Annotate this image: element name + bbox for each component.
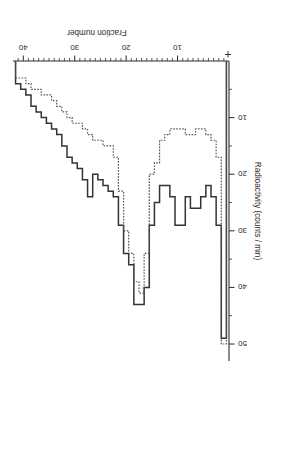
x-axis-title: Fraction number xyxy=(67,28,127,37)
y-axis-title: Radioactivity (counts / min) xyxy=(253,162,262,261)
origin-plus-marker: + xyxy=(224,47,231,61)
labels-group: 102030401020304050Fraction numberRadioac… xyxy=(18,28,262,348)
x-axis-tick-label: 40 xyxy=(18,43,27,52)
elution-profile-chart: 102030401020304050Fraction numberRadioac… xyxy=(0,0,281,453)
series-group xyxy=(16,61,227,344)
rotated-figure-container: 102030401020304050Fraction numberRadioac… xyxy=(0,0,281,453)
y-axis-tick-label: 40 xyxy=(237,282,246,291)
y-axis-tick-label: 50 xyxy=(237,339,246,348)
figure-canvas: 102030401020304050Fraction numberRadioac… xyxy=(0,0,281,453)
x-axis-tick-label: 20 xyxy=(121,43,130,52)
y-axis-tick-label: 30 xyxy=(237,226,246,235)
y-axis-tick-label: 20 xyxy=(237,169,246,178)
y-axis-tick-label: 10 xyxy=(237,113,246,122)
data-series-0 xyxy=(16,61,227,338)
x-axis-tick-label: 30 xyxy=(70,43,79,52)
data-series-1 xyxy=(16,61,227,344)
chart-plot-area: 102030401020304050Fraction numberRadioac… xyxy=(0,0,281,453)
x-axis-tick-label: 10 xyxy=(173,43,182,52)
